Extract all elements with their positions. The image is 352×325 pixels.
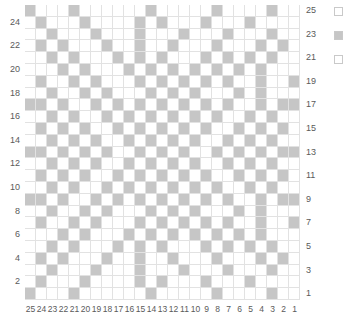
- chart-cell[interactable]: [113, 147, 124, 159]
- chart-cell[interactable]: [58, 265, 69, 277]
- chart-cell[interactable]: [47, 123, 58, 135]
- chart-cell[interactable]: [102, 17, 113, 29]
- chart-cell[interactable]: [190, 241, 201, 253]
- chart-cell[interactable]: [113, 135, 124, 147]
- chart-cell[interactable]: [267, 206, 278, 218]
- chart-cell[interactable]: [267, 29, 278, 41]
- chart-cell[interactable]: [278, 52, 289, 64]
- chart-cell[interactable]: [267, 241, 278, 253]
- chart-cell[interactable]: [278, 5, 289, 17]
- chart-cell[interactable]: [146, 276, 157, 288]
- chart-cell[interactable]: [267, 5, 278, 17]
- chart-cell[interactable]: [102, 217, 113, 229]
- chart-cell[interactable]: [179, 170, 190, 182]
- chart-cell[interactable]: [47, 265, 58, 277]
- chart-cell[interactable]: [256, 182, 267, 194]
- chart-cell[interactable]: [135, 17, 146, 29]
- chart-cell[interactable]: [69, 123, 80, 135]
- chart-cell[interactable]: [223, 76, 234, 88]
- chart-cell[interactable]: [102, 158, 113, 170]
- chart-cell[interactable]: [267, 253, 278, 265]
- chart-cell[interactable]: [201, 265, 212, 277]
- chart-cell[interactable]: [113, 40, 124, 52]
- chart-cell[interactable]: [256, 99, 267, 111]
- chart-cell[interactable]: [58, 182, 69, 194]
- chart-cell[interactable]: [69, 182, 80, 194]
- chart-cell[interactable]: [267, 288, 278, 300]
- chart-cell[interactable]: [212, 241, 223, 253]
- chart-cell[interactable]: [113, 5, 124, 17]
- chart-cell[interactable]: [146, 40, 157, 52]
- chart-cell[interactable]: [278, 123, 289, 135]
- chart-cell[interactable]: [91, 64, 102, 76]
- chart-cell[interactable]: [289, 206, 300, 218]
- chart-cell[interactable]: [168, 170, 179, 182]
- chart-cell[interactable]: [113, 241, 124, 253]
- chart-cell[interactable]: [124, 288, 135, 300]
- chart-cell[interactable]: [36, 194, 47, 206]
- chart-cell[interactable]: [289, 229, 300, 241]
- chart-cell[interactable]: [113, 217, 124, 229]
- chart-cell[interactable]: [157, 52, 168, 64]
- chart-cell[interactable]: [212, 17, 223, 29]
- chart-cell[interactable]: [135, 52, 146, 64]
- chart-cell[interactable]: [256, 147, 267, 159]
- chart-cell[interactable]: [190, 135, 201, 147]
- chart-cell[interactable]: [69, 158, 80, 170]
- chart-cell[interactable]: [146, 5, 157, 17]
- chart-cell[interactable]: [201, 52, 212, 64]
- chart-cell[interactable]: [256, 135, 267, 147]
- chart-cell[interactable]: [124, 158, 135, 170]
- chart-cell[interactable]: [157, 76, 168, 88]
- chart-cell[interactable]: [80, 52, 91, 64]
- chart-cell[interactable]: [47, 88, 58, 100]
- chart-cell[interactable]: [201, 217, 212, 229]
- chart-cell[interactable]: [201, 17, 212, 29]
- chart-cell[interactable]: [47, 29, 58, 41]
- chart-cell[interactable]: [146, 52, 157, 64]
- chart-cell[interactable]: [157, 253, 168, 265]
- chart-cell[interactable]: [135, 170, 146, 182]
- chart-cell[interactable]: [124, 123, 135, 135]
- chart-cell[interactable]: [201, 253, 212, 265]
- chart-cell[interactable]: [47, 229, 58, 241]
- chart-cell[interactable]: [245, 217, 256, 229]
- chart-cell[interactable]: [256, 111, 267, 123]
- chart-cell[interactable]: [102, 52, 113, 64]
- chart-cell[interactable]: [190, 158, 201, 170]
- chart-cell[interactable]: [47, 206, 58, 218]
- chart-cell[interactable]: [267, 182, 278, 194]
- chart-cell[interactable]: [91, 123, 102, 135]
- chart-cell[interactable]: [157, 29, 168, 41]
- chart-cell[interactable]: [157, 276, 168, 288]
- chart-cell[interactable]: [201, 182, 212, 194]
- chart-cell[interactable]: [36, 123, 47, 135]
- chart-cell[interactable]: [124, 147, 135, 159]
- chart-cell[interactable]: [289, 276, 300, 288]
- chart-cell[interactable]: [58, 111, 69, 123]
- chart-cell[interactable]: [113, 88, 124, 100]
- chart-cell[interactable]: [47, 288, 58, 300]
- chart-cell[interactable]: [212, 253, 223, 265]
- chart-cell[interactable]: [201, 241, 212, 253]
- chart-cell[interactable]: [80, 158, 91, 170]
- chart-cell[interactable]: [135, 253, 146, 265]
- chart-cell[interactable]: [168, 99, 179, 111]
- chart-cell[interactable]: [124, 64, 135, 76]
- chart-cell[interactable]: [223, 288, 234, 300]
- chart-cell[interactable]: [223, 88, 234, 100]
- chart-cell[interactable]: [201, 147, 212, 159]
- chart-cell[interactable]: [146, 229, 157, 241]
- chart-cell[interactable]: [102, 276, 113, 288]
- chart-cell[interactable]: [179, 206, 190, 218]
- chart-cell[interactable]: [289, 170, 300, 182]
- chart-cell[interactable]: [234, 206, 245, 218]
- chart-cell[interactable]: [36, 147, 47, 159]
- chart-cell[interactable]: [245, 253, 256, 265]
- chart-cell[interactable]: [179, 229, 190, 241]
- chart-cell[interactable]: [223, 194, 234, 206]
- chart-cell[interactable]: [91, 276, 102, 288]
- chart-cell[interactable]: [190, 217, 201, 229]
- chart-cell[interactable]: [69, 64, 80, 76]
- chart-cell[interactable]: [157, 206, 168, 218]
